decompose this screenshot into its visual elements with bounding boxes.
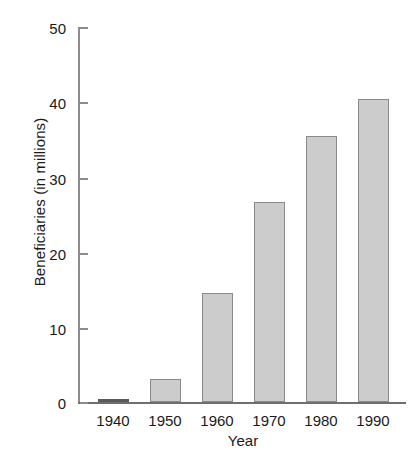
y-tick-mark [80, 178, 88, 180]
y-tick-50: 50 [78, 27, 88, 29]
y-tick-20: 20 [78, 253, 88, 255]
y-tick-0: 0 [78, 402, 88, 404]
x-tick-label-1980: 1980 [291, 412, 351, 429]
plot-area: 50 40 30 20 10 0 1940 1950 [78, 27, 408, 404]
y-tick-mark [80, 402, 88, 404]
x-tick-label-1940: 1940 [83, 412, 143, 429]
bar-1960 [202, 293, 233, 402]
y-tick-10: 10 [78, 328, 88, 330]
x-tick-label-1970: 1970 [239, 412, 299, 429]
y-tick-label: 50 [49, 20, 66, 37]
y-tick-mark [80, 27, 88, 29]
y-tick-label: 20 [49, 246, 66, 263]
y-axis-spine [78, 27, 80, 404]
y-tick-mark [80, 253, 88, 255]
x-axis-title: Year [78, 432, 408, 449]
y-tick-30: 30 [78, 178, 88, 180]
y-tick-label: 0 [58, 395, 66, 412]
y-tick-label: 10 [49, 321, 66, 338]
bar-1950 [150, 379, 181, 402]
bar-1940 [98, 399, 129, 402]
bar-1980 [306, 136, 337, 402]
x-tick-label-1990: 1990 [343, 412, 403, 429]
x-axis-spine [78, 402, 406, 404]
y-tick-label: 30 [49, 171, 66, 188]
y-axis-title: Beneficiaries (in millions) [26, 0, 52, 404]
x-tick-label-1950: 1950 [135, 412, 195, 429]
bar-chart-figure: Beneficiaries (in millions) 50 40 30 20 … [0, 0, 416, 469]
bar-1970 [254, 202, 285, 402]
y-tick-mark [80, 328, 88, 330]
y-tick-40: 40 [78, 102, 88, 104]
y-tick-mark [80, 102, 88, 104]
x-tick-label-1960: 1960 [187, 412, 247, 429]
bar-1990 [358, 99, 389, 402]
y-tick-label: 40 [49, 95, 66, 112]
